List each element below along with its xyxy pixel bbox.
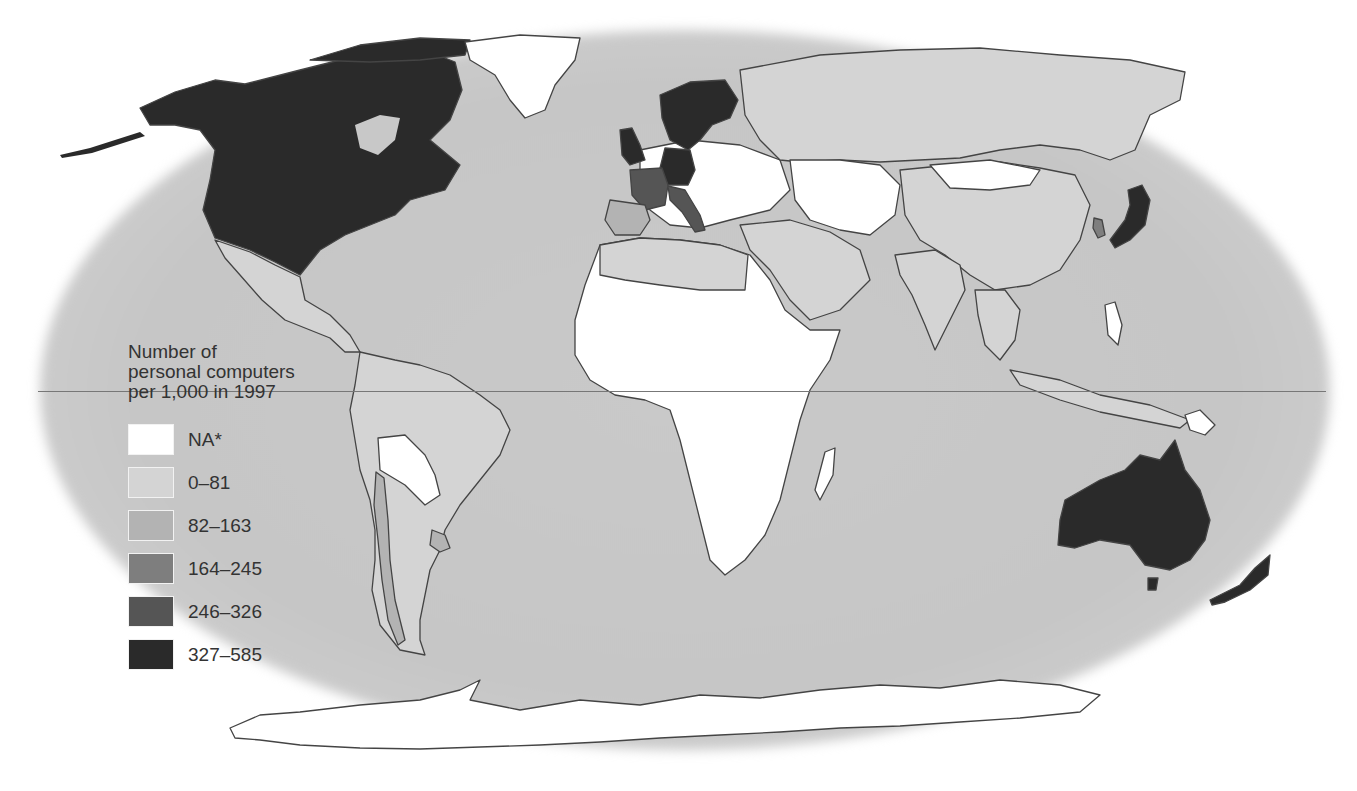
legend-swatch [128,596,174,627]
region-antarctica[interactable] [230,680,1100,749]
legend-items: NA* 0–81 82–163 164–245 246–326 327–585 [128,418,358,676]
region-spain[interactable] [605,200,650,235]
region-tasmania [1148,578,1158,590]
region-madagascar[interactable] [815,448,835,500]
region-uk[interactable] [620,128,645,165]
region-new-zealand[interactable] [1210,555,1270,605]
region-russia[interactable] [740,48,1185,162]
legend-item-82-163: 82–163 [128,504,358,547]
region-india[interactable] [895,250,965,350]
legend-item-na: NA* [128,418,358,461]
legend-title-line-1: Number of [128,342,358,362]
region-australia[interactable] [1058,440,1210,570]
legend-title: Number of personal computers per 1,000 i… [128,342,358,402]
legend-swatch [128,424,174,455]
region-indonesia[interactable] [1010,370,1190,428]
legend-label: NA* [188,429,222,451]
legend-label: 0–81 [188,472,230,494]
region-aleutians [60,132,145,158]
region-greenland[interactable] [465,35,580,118]
legend-label: 246–326 [188,601,262,623]
legend-swatch [128,467,174,498]
legend-title-line-2: personal computers [128,362,358,382]
legend-label: 164–245 [188,558,262,580]
legend-item-327-585: 327–585 [128,633,358,676]
region-philippines[interactable] [1105,302,1122,345]
region-papua-new-guinea[interactable] [1185,410,1215,435]
legend-item-164-245: 164–245 [128,547,358,590]
region-north-america[interactable] [140,48,462,275]
legend-title-line-3: per 1,000 in 1997 [128,382,358,402]
legend-swatch [128,639,174,670]
legend-label: 327–585 [188,644,262,666]
legend-item-0-81: 0–81 [128,461,358,504]
region-central-asia[interactable] [790,160,900,235]
legend: Number of personal computers per 1,000 i… [128,342,358,676]
region-japan[interactable] [1110,185,1150,248]
region-scandinavia[interactable] [660,80,738,150]
legend-swatch [128,510,174,541]
legend-swatch [128,553,174,584]
region-southeast-asia[interactable] [975,290,1020,360]
legend-label: 82–163 [188,515,251,537]
legend-item-246-326: 246–326 [128,590,358,633]
region-south-korea[interactable] [1093,218,1105,238]
